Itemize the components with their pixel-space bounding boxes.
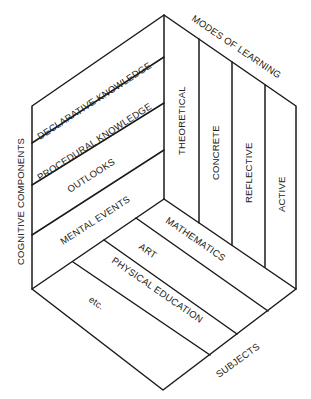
label-etc: etc. xyxy=(87,294,107,312)
label-active: ACTIVE xyxy=(276,176,287,212)
bottom-face-divider xyxy=(136,218,268,311)
cube-diagram: DECLARATIVE KNOWLEDGE PROCEDURAL KNOWLED… xyxy=(0,0,311,399)
label-art: ART xyxy=(137,241,159,261)
label-mental-events: MENTAL EVENTS xyxy=(58,193,132,246)
label-reflective: REFLECTIVE xyxy=(243,142,254,203)
label-theoretical: THEORETICAL xyxy=(176,86,187,155)
label-concrete: CONCRETE xyxy=(210,125,221,180)
label-declarative-knowledge: DECLARATIVE KNOWLEDGE xyxy=(35,60,153,142)
axis-label-cognitive-components: COGNITIVE COMPONENTS xyxy=(15,138,26,265)
label-physical-education: PHYSICAL EDUCATION xyxy=(110,255,205,325)
label-mathematics: MATHEMATICS xyxy=(164,215,228,264)
axis-label-modes-of-learning: MODES OF LEARNING xyxy=(190,13,283,81)
